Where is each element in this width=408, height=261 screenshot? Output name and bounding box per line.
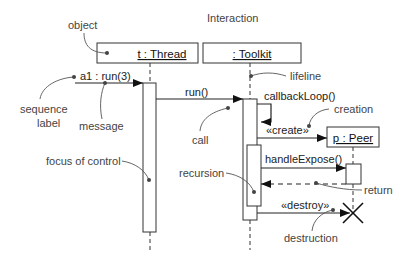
annotation-destruction-text: destruction [284, 232, 338, 244]
object-peer-name: p : Peer [333, 132, 373, 144]
annotation-lifeline-text: lifeline [290, 70, 321, 82]
annotation-object-text: object [68, 19, 97, 31]
message-run[interactable]: run() [156, 86, 243, 99]
activation-thread [143, 83, 156, 232]
message-handleexpose[interactable]: handleExpose() [261, 153, 346, 168]
annotation-message: message [79, 81, 124, 132]
object-thread-name: t : Thread [137, 48, 186, 60]
message-run-label: run() [185, 86, 208, 98]
annotation-call: call [192, 106, 230, 146]
object-thread[interactable]: t : Thread [97, 43, 198, 63]
annotation-sequence-text-2: label [37, 117, 60, 129]
diagram-title: Interaction [207, 12, 258, 24]
annotation-creation-text: creation [334, 103, 373, 115]
annotation-focus-of-control: focus of control [46, 155, 151, 182]
annotation-sequence-text-1: sequence [20, 103, 68, 115]
annotation-return-text: return [364, 184, 393, 196]
message-create-label: «create» [266, 124, 309, 136]
message-callbackloop-label: callbackLoop() [264, 90, 336, 102]
annotation-lifeline: lifeline [249, 70, 321, 82]
sequence-diagram: Interaction t : Thread : Toolkit p : Pee… [0, 0, 408, 261]
activation-toolkit-recursion [247, 145, 261, 206]
message-destroy[interactable]: «destroy» [257, 199, 350, 213]
annotation-recursion-text: recursion [179, 167, 224, 179]
message-run3[interactable]: a1 : run(3) [75, 70, 143, 83]
message-destroy-label: «destroy» [281, 199, 329, 211]
annotation-message-text: message [79, 120, 124, 132]
message-handleexpose-label: handleExpose() [265, 153, 342, 165]
object-peer[interactable]: p : Peer [327, 127, 379, 147]
message-run3-label: a1 : run(3) [80, 70, 131, 82]
message-callbackloop[interactable]: callbackLoop() [257, 90, 336, 122]
annotation-creation: creation [307, 103, 373, 128]
object-toolkit-name: : Toolkit [233, 48, 273, 60]
activation-peer [346, 164, 361, 184]
object-toolkit[interactable]: : Toolkit [203, 43, 301, 63]
annotation-sequence-label: sequence label [20, 75, 76, 129]
annotation-focus-text: focus of control [46, 155, 121, 167]
message-create[interactable]: «create» [257, 124, 327, 138]
annotation-call-text: call [192, 134, 209, 146]
